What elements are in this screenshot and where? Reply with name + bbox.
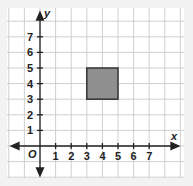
y-tick-label: 6 <box>27 47 33 58</box>
x-tick-label: 4 <box>99 151 105 162</box>
x-tick-label: 7 <box>146 151 152 162</box>
origin-label: O <box>28 149 37 160</box>
x-tick-label: 2 <box>68 151 74 162</box>
x-tick-label: 6 <box>131 151 137 162</box>
y-tick-label: 7 <box>27 32 33 43</box>
x-axis-label: x <box>171 131 177 142</box>
y-tick-label: 5 <box>27 63 33 74</box>
x-tick-label: 5 <box>115 151 121 162</box>
x-tick-label: 3 <box>84 151 90 162</box>
x-tick-label: 1 <box>53 151 59 162</box>
y-tick-label: 2 <box>27 110 33 121</box>
coordinate-plane-figure: y x O 1234567 1234567 <box>0 0 193 186</box>
y-axis-label: y <box>44 8 50 19</box>
y-tick-label: 3 <box>27 94 33 105</box>
y-tick-label: 4 <box>27 79 33 90</box>
y-tick-label: 1 <box>27 125 33 136</box>
shaded-square <box>87 68 118 99</box>
